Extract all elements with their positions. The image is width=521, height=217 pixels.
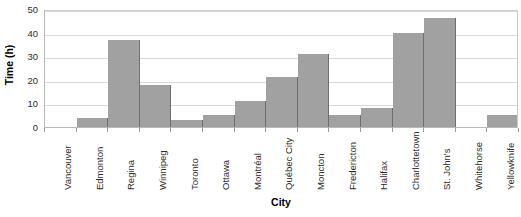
y-axis-tick-label: 30 (27, 52, 38, 61)
x-axis-category-label-text: Ottawa (221, 160, 231, 190)
x-axis-category-label-text: Charlottetown (411, 131, 421, 190)
y-axis-title-label: Time (h) (3, 45, 15, 86)
bar (393, 33, 425, 127)
y-axis-tick-label: 50 (27, 5, 38, 14)
bar (329, 115, 361, 127)
y-axis-tick-labels: 01020304050 (18, 0, 42, 135)
bar (203, 115, 235, 127)
bar (108, 40, 140, 127)
x-axis-category-label: Charlottetown (392, 132, 424, 192)
x-axis-category-labels: VancouverEdmontonReginaWinnipegTorontoOt… (44, 132, 518, 192)
x-axis-category-label-text: Moncton (316, 154, 326, 190)
x-axis-category-label: Winnipeg (139, 132, 171, 192)
bar (171, 120, 203, 127)
plot-area (44, 10, 518, 128)
x-axis-tick-mark (518, 128, 519, 132)
x-axis-category-label: Edmonton (76, 132, 108, 192)
bar (235, 101, 267, 127)
x-axis-category-label: Halifax (360, 132, 392, 192)
x-axis-title: City (44, 196, 518, 208)
x-axis-category-label-text: Toronto (190, 158, 200, 190)
bar (424, 18, 456, 127)
x-axis-category-label-text: Québec City (284, 138, 294, 190)
x-axis-category-label-text: Edmonton (95, 147, 105, 190)
y-axis-tick-label: 0 (33, 123, 38, 132)
x-axis-category-label: St. John's (423, 132, 455, 192)
x-axis-category-label: Whitehorse (455, 132, 487, 192)
x-axis-category-label: Regina (107, 132, 139, 192)
y-axis-tick-label: 40 (27, 29, 38, 38)
x-axis-category-label-text: St. John's (442, 149, 452, 190)
x-axis-category-label: Ottawa (202, 132, 234, 192)
bar (77, 118, 109, 127)
y-axis-tick-label: 10 (27, 99, 38, 108)
x-axis-category-label-text: Regina (126, 160, 136, 190)
x-axis-category-label-text: Yellowknife (506, 143, 516, 190)
bar (487, 115, 518, 127)
x-axis-category-label: Toronto (170, 132, 202, 192)
x-axis-category-label-text: Winnipeg (158, 150, 168, 190)
x-axis-category-label: Moncton (297, 132, 329, 192)
x-axis-category-label-text: Fredericton (348, 142, 358, 190)
y-axis-title: Time (h) (0, 0, 18, 130)
x-axis-category-label-text: Vancouver (63, 145, 73, 190)
y-axis-tick-label: 20 (27, 76, 38, 85)
x-axis-category-label-text: Halifax (379, 161, 389, 190)
x-axis-category-label: Québec City (265, 132, 297, 192)
bar (266, 77, 298, 127)
x-axis-category-label-text: Whitehorse (474, 142, 484, 190)
bar (140, 85, 172, 127)
x-axis-category-label-text: Montréal (253, 153, 263, 190)
bar-chart: Time (h) 01020304050 VancouverEdmontonRe… (0, 0, 521, 217)
x-axis-category-label: Vancouver (44, 132, 76, 192)
bars-container (45, 11, 517, 127)
x-axis-category-label: Montréal (234, 132, 266, 192)
bar (298, 54, 330, 127)
bar (361, 108, 393, 127)
x-axis-category-label: Yellowknife (486, 132, 518, 192)
x-axis-category-label: Fredericton (328, 132, 360, 192)
